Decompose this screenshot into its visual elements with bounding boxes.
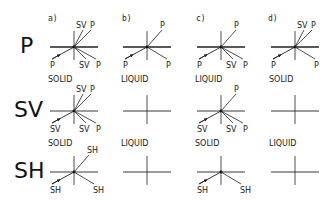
reflected-ray-sv bbox=[74, 30, 83, 47]
reflected-ray bbox=[221, 30, 236, 47]
phase-label: SOLID bbox=[48, 75, 72, 84]
incident-label: SV bbox=[50, 125, 61, 134]
transmitted-label-p: P bbox=[243, 125, 248, 134]
reflected-ray-p bbox=[295, 30, 312, 47]
incident-label: P bbox=[50, 61, 55, 70]
incident-arrow bbox=[52, 119, 60, 123]
incident-label: SV bbox=[197, 125, 208, 134]
transmitted-label-p: P bbox=[96, 125, 101, 134]
transmitted-ray bbox=[295, 47, 315, 59]
incident-label: P bbox=[271, 61, 276, 70]
transmitted-label: SH bbox=[240, 186, 251, 195]
incident-label: SH bbox=[197, 186, 208, 195]
transmitted-ray-p bbox=[74, 47, 96, 59]
reflected-ray bbox=[221, 94, 236, 111]
transmitted-ray-p bbox=[74, 111, 96, 123]
transmitted-ray-p bbox=[221, 47, 243, 59]
transmitted-label: P bbox=[314, 61, 319, 70]
reflected-label-p: P bbox=[90, 21, 95, 30]
reflected-label: P bbox=[234, 85, 239, 94]
incident-arrow bbox=[273, 55, 281, 59]
incident-label: P bbox=[197, 61, 202, 70]
reflected-ray bbox=[74, 155, 89, 172]
phase-label: LIQUID bbox=[121, 139, 149, 148]
incident-arrow bbox=[199, 180, 207, 184]
reflected-label: SH bbox=[87, 146, 98, 155]
transmitted-ray bbox=[147, 47, 167, 59]
reflected-label-sv: SV bbox=[76, 85, 87, 94]
reflected-ray-p bbox=[74, 30, 91, 47]
incident-label: P bbox=[123, 61, 128, 70]
transmitted-label: P bbox=[166, 61, 171, 70]
reflected-ray-sv bbox=[295, 30, 304, 47]
incident-arrow bbox=[52, 55, 60, 59]
transmitted-label: SH bbox=[93, 186, 104, 195]
phase-label: LIQUID bbox=[121, 75, 149, 84]
transmitted-ray bbox=[74, 172, 94, 184]
incident-arrow bbox=[199, 119, 207, 123]
transmitted-ray-p bbox=[221, 111, 243, 123]
transmitted-label-p: P bbox=[243, 61, 248, 70]
reflected-label-sv: SV bbox=[297, 21, 308, 30]
incident-arrow bbox=[52, 180, 60, 184]
reflected-label-p: P bbox=[311, 21, 316, 30]
incident-arrow bbox=[199, 55, 207, 59]
incident-label: SH bbox=[50, 186, 61, 195]
phase-label: SOLID bbox=[195, 139, 219, 148]
reflected-ray-sv bbox=[74, 94, 83, 111]
reflected-label-p: P bbox=[90, 85, 95, 94]
phase-label: SOLID bbox=[269, 75, 293, 84]
transmitted-label-p: P bbox=[96, 61, 101, 70]
reflected-label: P bbox=[160, 21, 165, 30]
incident-arrow bbox=[125, 55, 133, 59]
wave-diagram: PSVPSVPSOLIDPPPLIQUIDPPSVPLIQUIDPSVPPSOL… bbox=[0, 0, 335, 204]
transmitted-label-sv: SV bbox=[79, 61, 90, 70]
phase-label: SOLID bbox=[48, 139, 72, 148]
transmitted-label-sv: SV bbox=[226, 125, 237, 134]
transmitted-ray bbox=[221, 172, 241, 184]
reflected-ray bbox=[147, 30, 162, 47]
phase-label: LIQUID bbox=[195, 75, 223, 84]
reflected-ray-p bbox=[74, 94, 91, 111]
reflected-label: P bbox=[234, 21, 239, 30]
reflected-label-sv: SV bbox=[76, 21, 87, 30]
transmitted-label-sv: SV bbox=[79, 125, 90, 134]
transmitted-label-sv: SV bbox=[226, 61, 237, 70]
phase-label: LIQUID bbox=[269, 139, 297, 148]
